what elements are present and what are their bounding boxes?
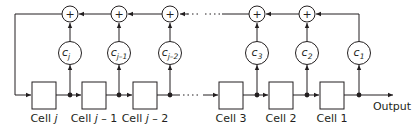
svg-text:Cell 3: Cell 3 (215, 112, 246, 125)
cell-1: Cell 1 (316, 82, 347, 125)
svg-text:Cell 2: Cell 2 (265, 112, 296, 125)
lfsr-diagram: + + + + + cj cj–1 cj–2 c3 c2 c1 (0, 0, 418, 127)
adder-add-j-2: + (162, 6, 178, 22)
adder-add-2: + (299, 6, 315, 22)
cell-j-1: Cell j – 1 (71, 82, 118, 125)
svg-text:Cell j – 1: Cell j – 1 (71, 112, 118, 125)
plus-icon: + (302, 8, 311, 21)
output-label: Output (373, 100, 412, 113)
plus-icon: + (165, 8, 174, 21)
coefficient-c-2: c2 (296, 42, 319, 65)
coefficient-c-j-2: cj–2 (159, 42, 182, 65)
coefficient-c-3: c3 (246, 42, 269, 65)
adder-add-3: + (249, 6, 265, 22)
svg-text:Cell j: Cell j (30, 112, 58, 125)
coefficient-c-1: c1 (348, 42, 371, 65)
svg-text:Cell j – 2: Cell j – 2 (122, 112, 169, 125)
svg-text:Cell 1: Cell 1 (316, 112, 347, 125)
plus-icon: + (65, 8, 74, 21)
cell-j: Cell j (30, 82, 58, 125)
cell-2: Cell 2 (265, 82, 296, 125)
cell-3: Cell 3 (215, 82, 246, 125)
plus-icon: + (114, 8, 123, 21)
plus-icon: + (252, 8, 261, 21)
adder-add-j-1: + (111, 6, 127, 22)
coefficient-c-j: cj (59, 42, 82, 65)
cell-j-2: Cell j – 2 (122, 82, 169, 125)
adder-add-j: + (62, 6, 78, 22)
coefficient-c-j-1: cj–1 (108, 42, 131, 65)
